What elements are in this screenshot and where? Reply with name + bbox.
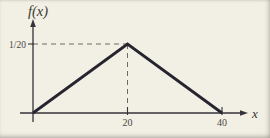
y-axis-arrowhead (30, 19, 36, 27)
x-tick-label-40: 40 (217, 117, 227, 128)
x-tick-label-20: 20 (123, 117, 133, 128)
x-axis-label: x (251, 106, 258, 121)
y-tick-label-1-20: 1/20 (9, 40, 26, 50)
x-axis-arrowhead (240, 110, 248, 116)
y-axis-label: f(x) (28, 3, 48, 20)
chart-canvas: f(x) x 1/20 20 40 (0, 0, 270, 138)
triangular-density-figure: f(x) x 1/20 20 40 (0, 0, 270, 138)
